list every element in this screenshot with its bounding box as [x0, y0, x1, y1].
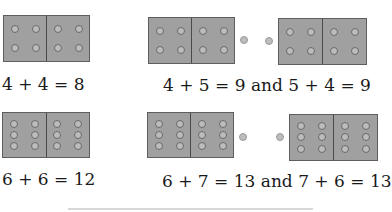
pip	[219, 120, 227, 128]
domino-half-right	[46, 113, 90, 157]
pip	[54, 44, 62, 52]
equation-double-6: 6 + 6 = 12	[2, 169, 95, 189]
pip	[74, 120, 82, 128]
pip	[10, 131, 18, 139]
pip	[53, 120, 61, 128]
pip	[177, 27, 185, 35]
pip	[199, 46, 207, 54]
pip	[198, 142, 206, 150]
pip	[155, 120, 163, 128]
pip	[198, 131, 206, 139]
pip	[286, 28, 294, 36]
pip	[11, 44, 19, 52]
pip	[341, 122, 349, 130]
pip	[351, 47, 359, 55]
domino-double-4	[3, 15, 90, 62]
domino-near-double-6-7-right	[289, 114, 378, 161]
pip	[219, 142, 227, 150]
pip	[362, 145, 370, 153]
pip	[156, 27, 164, 35]
divider-line	[68, 208, 313, 210]
domino-half-left	[3, 113, 46, 157]
domino-half-left	[149, 18, 191, 63]
pip	[351, 28, 359, 36]
domino-near-double-6-7-left	[147, 112, 234, 158]
pip	[155, 131, 163, 139]
domino-half-right	[190, 113, 233, 157]
pip	[341, 133, 349, 141]
domino-half-right	[322, 19, 366, 64]
equation-double-4: 4 + 4 = 8	[2, 74, 85, 94]
domino-half-left	[4, 16, 46, 61]
domino-half-right	[191, 18, 234, 63]
pip	[177, 46, 185, 54]
pip	[176, 120, 184, 128]
pip	[297, 145, 305, 153]
domino-near-double-4-5-right	[278, 18, 367, 65]
pip	[156, 46, 164, 54]
pip	[318, 133, 326, 141]
pip	[176, 131, 184, 139]
pip	[10, 120, 18, 128]
pip	[74, 142, 82, 150]
pip	[330, 47, 338, 55]
pip	[286, 47, 294, 55]
pip	[31, 142, 39, 150]
loose-pip	[276, 133, 284, 141]
pip	[155, 142, 163, 150]
pip	[32, 44, 40, 52]
domino-half-right	[46, 16, 89, 61]
pip	[11, 25, 19, 33]
pip	[31, 131, 39, 139]
loose-pip	[239, 133, 247, 141]
pip	[341, 145, 349, 153]
pip	[75, 44, 83, 52]
equation-near-double-4-5: 4 + 5 = 9 and 5 + 4 = 9	[163, 75, 371, 95]
pip	[176, 142, 184, 150]
pip	[297, 122, 305, 130]
pip	[219, 131, 227, 139]
pip	[74, 131, 82, 139]
pip	[53, 142, 61, 150]
domino-half-left	[148, 113, 190, 157]
loose-pip	[240, 36, 248, 44]
domino-half-left	[279, 19, 322, 64]
pip	[362, 122, 370, 130]
loose-pip	[265, 37, 273, 45]
domino-near-double-4-5-left	[148, 17, 235, 64]
pip	[297, 133, 305, 141]
pip	[220, 46, 228, 54]
pip	[318, 122, 326, 130]
pip	[362, 133, 370, 141]
pip	[199, 27, 207, 35]
pip	[10, 142, 18, 150]
domino-half-left	[290, 115, 333, 160]
pip	[53, 131, 61, 139]
equation-near-double-6-7: 6 + 7 = 13 and 7 + 6 = 13	[162, 171, 392, 191]
pip	[307, 47, 315, 55]
pip	[318, 145, 326, 153]
pip	[307, 28, 315, 36]
pip	[220, 27, 228, 35]
pip	[32, 25, 40, 33]
pip	[75, 25, 83, 33]
pip	[198, 120, 206, 128]
pip	[330, 28, 338, 36]
domino-double-6	[2, 112, 90, 158]
domino-half-right	[333, 115, 377, 160]
pip	[31, 120, 39, 128]
pip	[54, 25, 62, 33]
